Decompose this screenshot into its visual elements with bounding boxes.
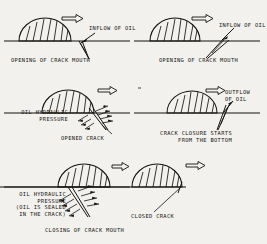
panel-caption: CLOSED CRACK bbox=[131, 213, 174, 220]
opened-crack-leader bbox=[103, 126, 112, 134]
crack-opened bbox=[89, 108, 108, 130]
inflow-of-oil-label: INFLOW OF OIL bbox=[219, 22, 266, 29]
inflow-of-oil-label: INFLOW OF OIL bbox=[89, 25, 136, 32]
motion-arrow-icon bbox=[192, 15, 213, 23]
inflow-arrow-icon bbox=[222, 28, 234, 40]
motion-arrow-icon bbox=[62, 15, 83, 23]
panel-middle-right: OUTFLOWOF OIL CRACK CLOSURE STARTSFROM T… bbox=[134, 82, 267, 144]
crack-wide-v bbox=[206, 36, 229, 58]
oil-hydraulic-pressure-sealed-label: OIL HYDRAULICPRESSURE(OIL IS SEALEDIN TH… bbox=[4, 191, 66, 217]
panel-middle-left: OIL HYDRAULICPRESSURE OPENED CRACK bbox=[0, 82, 134, 144]
motion-arrow-icon bbox=[206, 87, 225, 95]
panel-bottom-right: CLOSED CRACK bbox=[134, 160, 267, 244]
motion-arrow-icon bbox=[186, 162, 205, 170]
outflow-of-oil-label: OUTFLOWOF OIL bbox=[225, 89, 250, 102]
motion-arrow-icon bbox=[112, 163, 129, 171]
panel-top-left: INFLOW OF OIL OPENING OF CRACK MOUTH bbox=[0, 0, 134, 60]
panel-caption: CRACK CLOSURE STARTSFROM THE BOTTOM bbox=[154, 130, 232, 143]
oil-hydraulic-pressure-label: OIL HYDRAULICPRESSURE bbox=[6, 109, 68, 122]
contact-body-dome bbox=[167, 91, 217, 113]
panel-caption: CLOSING OF CRACK MOUTH bbox=[45, 227, 124, 234]
panel-caption: OPENED CRACK bbox=[61, 135, 104, 142]
panel-top-right: INFLOW OF OIL OPENING OF CRACK MOUTH bbox=[134, 0, 267, 60]
motion-arrow-icon bbox=[98, 87, 117, 95]
panel-caption: OPENING OF CRACK MOUTH bbox=[11, 57, 90, 64]
crack-propagation-figure: INFLOW OF OIL OPENING OF CRACK MOUTH bbox=[0, 0, 267, 244]
panel-bottom-left: OIL HYDRAULICPRESSURE(OIL IS SEALEDIN TH… bbox=[0, 160, 134, 244]
closed-crack-leader bbox=[154, 187, 181, 212]
crack-sealed bbox=[68, 187, 90, 217]
panel-caption: OPENING OF CRACK MOUTH bbox=[159, 57, 238, 64]
